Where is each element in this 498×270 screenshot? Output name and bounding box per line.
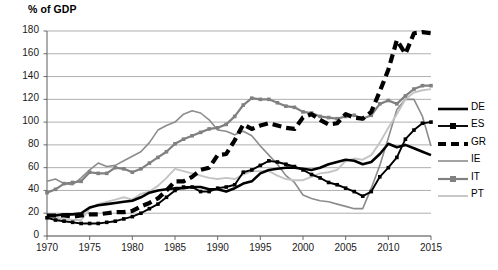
x-tick-label: 2000 [283,242,323,253]
series-marker-ES [122,217,126,221]
series-marker-ES [318,176,322,180]
x-tick-label: 2005 [326,242,366,253]
series-marker-IT [293,106,297,110]
series-marker-IT [318,115,322,119]
series-IE [47,99,431,208]
x-tick-label: 1975 [70,242,110,253]
series-marker-IT [395,102,399,106]
series-marker-IT [156,156,160,160]
series-marker-ES [105,221,109,225]
legend-item-es[interactable]: ES [438,116,498,134]
y-tick-label: 80 [5,138,39,149]
series-marker-IT [148,161,152,165]
series-marker-ES [327,181,331,185]
series-marker-ES [79,222,83,226]
legend-item-gr[interactable]: GR [438,133,498,151]
legend-label-de: DE [471,102,485,112]
y-tick-label: 100 [5,115,39,126]
series-marker-ES [165,195,169,199]
legend-label-es: ES [471,119,484,129]
series-marker-ES [352,190,356,194]
series-marker-IT [88,170,92,174]
series-marker-IT [412,87,416,91]
legend-item-it[interactable]: IT [438,168,498,186]
series-marker-ES [421,121,425,125]
series-marker-IT [267,98,271,102]
series-marker-ES [71,221,75,225]
series-marker-IT [113,166,117,170]
y-tick-label: 120 [5,92,39,103]
series-marker-IT [250,96,254,100]
legend-label-pt: PT [471,189,484,199]
y-tick-label: 40 [5,183,39,194]
legend-swatch-pt [438,188,468,200]
series-line-IE [47,99,431,208]
series-marker-ES [335,183,339,187]
series-marker-ES [88,222,92,226]
legend-key-icon [438,173,468,185]
series-marker-ES [361,194,365,198]
series-marker-IT [45,191,49,195]
legend-label-it: IT [471,172,480,182]
series-marker-ES [259,164,263,168]
series-marker-ES [276,160,280,164]
series-marker-ES [344,186,348,190]
legend-item-ie[interactable]: IE [438,151,498,169]
series-marker-ES [412,128,416,132]
series-marker-IT [259,98,263,102]
series-marker-IT [207,127,211,131]
series-marker-ES [199,190,203,194]
x-tick-label: 2010 [368,242,408,253]
series-marker-IT [71,181,75,185]
legend-item-pt[interactable]: PT [438,186,498,204]
series-marker-IT [173,142,177,146]
series-marker-ES [241,170,245,174]
series-marker-ES [378,175,382,179]
chart-legend: DEESGRIEITPT [438,98,498,203]
series-marker-ES [139,211,143,215]
series-marker-IT [190,134,194,138]
series-marker-ES [310,173,314,177]
series-marker-ES [404,137,408,141]
series-marker-ES [148,207,152,211]
legend-item-de[interactable]: DE [438,98,498,116]
series-marker-ES [369,190,373,194]
legend-swatch-gr [438,136,468,148]
legend-marker [450,123,456,129]
series-marker-ES [131,215,135,219]
y-tick-label: 140 [5,70,39,81]
y-tick-label: 0 [5,229,39,240]
legend-key-icon [438,190,468,202]
series-marker-ES [429,120,433,124]
series-marker-ES [395,156,399,160]
series-marker-ES [224,185,228,189]
series-marker-ES [96,222,100,226]
x-tick-label: 1995 [240,242,280,253]
legend-key-icon [438,120,468,132]
series-marker-IT [122,167,126,171]
x-tick-label: 1970 [27,242,67,253]
legend-swatch-es [438,118,468,130]
y-tick-label: 20 [5,206,39,217]
legend-swatch-it [438,171,468,183]
series-marker-IT [216,126,220,130]
y-tick-label: 60 [5,161,39,172]
series-marker-IT [105,172,109,176]
series-marker-IT [378,102,382,106]
series-marker-IT [182,137,186,141]
series-marker-ES [156,202,160,206]
axes [44,31,432,240]
series-marker-ES [267,159,271,163]
series-marker-IT [301,110,305,114]
legend-key-icon [438,103,468,115]
series-marker-ES [113,219,117,223]
series-marker-ES [62,219,66,223]
series-marker-IT [429,84,433,88]
series-marker-IT [139,167,143,171]
legend-label-ie: IE [471,154,480,164]
series-marker-IT [62,182,66,186]
series-marker-ES [54,218,58,222]
series-marker-IT [96,172,100,176]
y-tick-label: 160 [5,47,39,58]
series-marker-IT [165,150,169,154]
